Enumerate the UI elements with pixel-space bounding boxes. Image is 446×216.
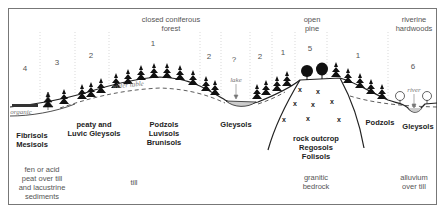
svg-text:x: x bbox=[330, 98, 334, 105]
zone-number: 2 bbox=[207, 52, 211, 61]
svg-text:x: x bbox=[337, 116, 341, 123]
zone-number: 6 bbox=[411, 62, 415, 71]
svg-text:x: x bbox=[316, 88, 320, 95]
svg-text:x: x bbox=[298, 86, 302, 93]
river-label: river bbox=[407, 86, 421, 94]
conifer-trees bbox=[43, 62, 387, 110]
parent-alluvium: alluvium over till bbox=[400, 173, 428, 191]
parent-granitic: granitic bedrock bbox=[303, 173, 330, 191]
soil-podzols-luvisols: Podzols Luvisols Brunisols bbox=[147, 120, 182, 147]
soil-peaty-gleysols: peaty and Luvic Gleysols bbox=[68, 120, 121, 138]
riverine-hardwoods-label: riverine hardwoods bbox=[396, 15, 433, 33]
zone-number: 1 bbox=[281, 48, 285, 57]
pointer-arrows bbox=[234, 84, 416, 108]
lake bbox=[226, 101, 256, 106]
organic-label: organic bbox=[10, 108, 32, 116]
parent-till: till bbox=[130, 178, 137, 187]
svg-text:x: x bbox=[282, 116, 286, 123]
lake-label: lake bbox=[230, 76, 242, 84]
open-pine-label: open pine bbox=[304, 15, 321, 33]
zone-number: 4 bbox=[23, 64, 27, 73]
ground-surface bbox=[10, 77, 437, 112]
rock-x-marks: xx xxx xxx bbox=[282, 86, 341, 123]
soil-rock-outcrop: rock outcrop Regosols Folisols bbox=[293, 134, 339, 161]
closed-forest-label: closed coniferous forest bbox=[142, 15, 200, 33]
zone-number: 2 bbox=[89, 51, 93, 60]
soil-podzols: Podzols bbox=[366, 118, 395, 127]
soil-gleysols-lake: Gleysols bbox=[220, 120, 251, 129]
zone-number: 3 bbox=[55, 58, 59, 67]
landscape-cross-section: xx xxx xxx bbox=[0, 0, 446, 216]
zone-number: 5 bbox=[308, 44, 312, 53]
zone-number: 1 bbox=[151, 39, 155, 48]
zone-number: 2 bbox=[258, 52, 262, 61]
open-pine-trees bbox=[301, 63, 328, 81]
parent-fen: fen or acid peat over till and lacustrin… bbox=[19, 165, 66, 201]
zone-number: 1 bbox=[356, 51, 360, 60]
soil-fibrisols: Fibrisols Mesisols bbox=[16, 131, 48, 149]
river bbox=[408, 108, 422, 113]
organic-hatch bbox=[12, 104, 38, 107]
svg-text:x: x bbox=[311, 101, 315, 108]
zone-number: ? bbox=[232, 55, 236, 64]
svg-text:x: x bbox=[293, 100, 297, 107]
svg-text:x: x bbox=[306, 115, 310, 122]
soil-gleysols-river: Gleysols bbox=[402, 122, 433, 131]
